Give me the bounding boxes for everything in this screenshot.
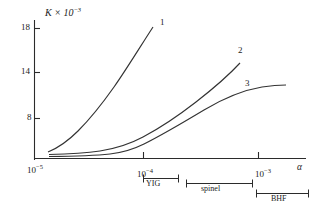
x-tick-mantissa-3: 10 [255, 169, 264, 179]
y-tick-label-14: 14 [21, 67, 30, 76]
x-tick-mantissa-1: 10 [27, 165, 36, 175]
curve-3 [49, 85, 286, 157]
x-tick-exponent-3: −3 [264, 167, 271, 174]
curve-2 [49, 63, 240, 155]
y-axis-symbol: K [45, 7, 52, 18]
y-tick-label-18: 18 [21, 23, 30, 32]
curve-1 [48, 27, 153, 152]
curve-label-3: 3 [245, 79, 250, 88]
curve-label-1: 1 [160, 18, 165, 27]
x-tick-label-1e-5: 10−5 [27, 166, 43, 175]
y-tick-label-8: 8 [27, 113, 32, 122]
plot-canvas [0, 0, 322, 212]
x-tick-exponent-2: −4 [146, 167, 153, 174]
y-axis-title: K × 10−3 [45, 8, 81, 18]
x-tick-marks [144, 152, 259, 159]
curve-label-2: 2 [238, 46, 243, 55]
chart-figure: K × 10−3 18 14 8 10−5 10−4 10−3 α 1 2 3 … [0, 0, 322, 212]
range-label-bhf: BHF [271, 195, 287, 203]
range-label-yig: YIG [146, 180, 160, 188]
x-tick-exponent-1: −5 [36, 163, 43, 170]
x-axis-title: α [297, 163, 302, 173]
x-tick-mantissa-2: 10 [137, 169, 146, 179]
range-label-spinel: spinel [201, 185, 220, 193]
y-axis-exponent: −3 [73, 6, 81, 13]
y-tick-marks [35, 29, 41, 119]
x-tick-label-1e-3: 10−3 [255, 170, 271, 179]
axes-group [35, 20, 307, 160]
x-tick-label-1e-4: 10−4 [137, 170, 153, 179]
